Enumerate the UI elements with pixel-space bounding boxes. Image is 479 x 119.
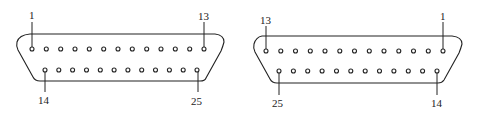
pin (154, 68, 158, 72)
pin (130, 47, 134, 51)
left-label-13: 13 (198, 10, 210, 22)
pin (145, 47, 149, 51)
left-label-25: 25 (191, 95, 203, 107)
pin (277, 69, 281, 73)
left-connector: 1 13 14 25 (17, 9, 224, 107)
right-label-14: 14 (431, 97, 443, 109)
pin (159, 47, 163, 51)
pin (349, 69, 353, 73)
pin (195, 68, 199, 72)
pin (397, 49, 401, 53)
left-label-1: 1 (29, 9, 35, 21)
pin (30, 47, 34, 51)
pin (306, 69, 310, 73)
left-label-14: 14 (38, 94, 50, 106)
pin (57, 68, 61, 72)
right-label-25: 25 (272, 97, 284, 109)
pin (308, 49, 312, 53)
pin (435, 69, 439, 73)
pin (71, 68, 75, 72)
pin (188, 47, 192, 51)
pin (406, 69, 410, 73)
pin (112, 68, 116, 72)
pin (320, 69, 324, 73)
pin (367, 49, 371, 53)
pin (126, 68, 130, 72)
pin (378, 69, 382, 73)
pin (264, 49, 268, 53)
pin (363, 69, 367, 73)
pin (353, 49, 357, 53)
left-top-row-pins (30, 47, 206, 51)
left-bottom-row-pins (43, 68, 199, 72)
right-connector: 13 1 25 14 (254, 10, 462, 109)
pin (279, 49, 283, 53)
pin (202, 47, 206, 51)
left-connector-outline (17, 34, 224, 81)
pin (44, 47, 48, 51)
right-label-1: 1 (440, 10, 446, 22)
pin (85, 68, 89, 72)
db25-diagram: 1 13 14 25 13 1 25 14 (0, 0, 479, 119)
pin (167, 68, 171, 72)
pin (421, 69, 425, 73)
pin (382, 49, 386, 53)
right-label-13: 13 (260, 14, 272, 26)
pin (173, 47, 177, 51)
pin (102, 47, 106, 51)
pin (116, 47, 120, 51)
pin (412, 49, 416, 53)
pin (338, 49, 342, 53)
pin (43, 68, 47, 72)
pin (181, 68, 185, 72)
pin (87, 47, 91, 51)
pin (323, 49, 327, 53)
pin (140, 68, 144, 72)
right-connector-outline (254, 36, 462, 83)
pin (294, 49, 298, 53)
pin (441, 49, 445, 53)
pin (291, 69, 295, 73)
pin (426, 49, 430, 53)
right-bottom-row-pins (277, 69, 439, 73)
pin (73, 47, 77, 51)
right-top-row-pins (264, 49, 445, 53)
pin (59, 47, 63, 51)
pin (98, 68, 102, 72)
pin (392, 69, 396, 73)
pin (335, 69, 339, 73)
